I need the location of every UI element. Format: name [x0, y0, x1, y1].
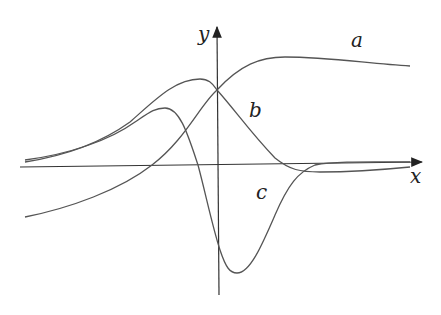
curve-c-label: c [256, 182, 267, 202]
y-axis-label: y [198, 24, 209, 44]
curve-a-label: a [351, 30, 363, 50]
figure-canvas [0, 0, 441, 315]
x-axis-label: x [410, 166, 421, 186]
x-axis [20, 162, 422, 167]
y-axis [217, 27, 219, 295]
curve-b-label: b [249, 100, 262, 120]
